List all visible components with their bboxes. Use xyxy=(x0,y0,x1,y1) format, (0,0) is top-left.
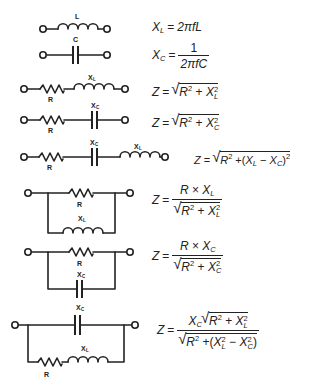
label-R: R xyxy=(48,127,53,134)
label-R: R xyxy=(47,164,52,171)
circuit-parallel-rl: R X L xyxy=(25,189,133,233)
label-R: R xyxy=(44,371,49,378)
circuit-inductor: L xyxy=(40,13,110,32)
label-XL-sub: L xyxy=(86,348,89,353)
label-C: C xyxy=(73,36,78,43)
label-XC-sub: C xyxy=(82,274,86,279)
formula-series-rcl: Z=R2 +(XL − XC)2 xyxy=(194,151,290,168)
formula-inductive-reactance: XL=2πfL xyxy=(152,21,202,35)
label-XL-sub: L xyxy=(83,218,86,223)
formula-parallel-rc: Z=R × XCR2 + X2C xyxy=(152,240,223,274)
circuit-parallel-c-rl: X C X L R xyxy=(12,304,138,378)
formula-parallel-c-rl: Z=XCR2 + X2LR2 +(X2L − X2C) xyxy=(157,312,259,350)
label-XL-sub: L xyxy=(93,77,96,82)
circuit-capacitor: C xyxy=(40,36,110,64)
label-R: R xyxy=(77,201,82,208)
circuit-series-rl: R X L xyxy=(21,74,128,103)
label-XL-sub: L xyxy=(139,146,142,151)
label-XC-sub: C xyxy=(96,105,100,110)
label-R: R xyxy=(77,260,82,267)
label-L: L xyxy=(75,13,80,20)
label-XC-sub: C xyxy=(95,142,99,147)
circuit-series-rc: R X C xyxy=(21,102,128,134)
circuit-series-rcl: R X C X L xyxy=(21,139,168,171)
circuit-parallel-rc: R X C xyxy=(25,248,133,298)
formula-series-rc: Z=R2 + X2C xyxy=(152,114,219,131)
label-R: R xyxy=(48,96,53,103)
formula-parallel-rl: Z=R × XLR2 + X2L xyxy=(152,184,222,218)
label-XC-sub: C xyxy=(81,307,85,312)
formula-capacitive-reactance: XC=12πfC xyxy=(152,42,209,70)
formula-series-rl: Z=R2 + X2L xyxy=(152,83,218,100)
